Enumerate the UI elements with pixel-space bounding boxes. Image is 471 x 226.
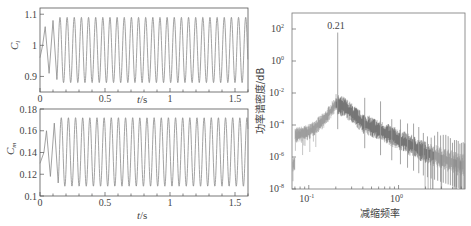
x-tick-label: 1.5 bbox=[229, 197, 242, 208]
cl-ylabel: Cl bbox=[8, 41, 22, 50]
psd-y-tick-label: 100 bbox=[271, 55, 284, 66]
cl-xlabel: t/s bbox=[137, 93, 147, 105]
x-tick-label: 1 bbox=[168, 93, 173, 104]
y-tick-label: 0.18 bbox=[20, 104, 38, 115]
cl-series-line bbox=[40, 17, 248, 82]
cm-x-ticks: 00.511.5 bbox=[38, 192, 249, 208]
cl-plot: 00.511.5 1.110.9 Cl t/s bbox=[8, 8, 248, 105]
y-tick-label: 1 bbox=[32, 40, 37, 51]
chart-figure: 00.511.5 1.110.9 Cl t/s 00.511.5 0.180.1… bbox=[0, 0, 471, 226]
cm-series-line bbox=[40, 118, 248, 187]
psd-x-ticks: 10-1100 bbox=[295, 185, 461, 204]
peak-annotation: 0.21 bbox=[327, 20, 345, 31]
y-tick-label: 1.1 bbox=[25, 9, 38, 20]
x-tick-label: 1 bbox=[168, 197, 173, 208]
cl-y-ticks: 1.110.9 bbox=[25, 9, 45, 82]
x-tick-label: 1.5 bbox=[229, 93, 242, 104]
psd-y-tick-label: 10-8 bbox=[269, 183, 284, 194]
x-tick-label: 0 bbox=[38, 197, 43, 208]
psd-y-tick-label: 102 bbox=[271, 23, 284, 34]
psd-y-tick-label: 10-2 bbox=[269, 87, 284, 98]
cm-ylabel: Cm bbox=[4, 143, 18, 155]
y-tick-label: 0.1 bbox=[25, 191, 38, 202]
psd-series bbox=[293, 33, 465, 189]
y-tick-label: 0.12 bbox=[20, 169, 38, 180]
psd-y-tick-label: 10-6 bbox=[269, 151, 284, 162]
x-tick-label: 0.5 bbox=[99, 93, 112, 104]
x-tick-label: 0.5 bbox=[99, 197, 112, 208]
y-tick-label: 0.14 bbox=[20, 147, 38, 158]
psd-ylabel: 功率谱密度/dB bbox=[254, 68, 266, 135]
x-tick-label: 0 bbox=[38, 93, 43, 104]
psd-plot: 10210010-210-410-610-8 10-1100 0.21 功率谱密… bbox=[254, 13, 465, 219]
cm-plot: 00.511.5 0.180.160.140.120.1 Cm t/s bbox=[4, 104, 248, 222]
psd-xlabel: 减缩频率 bbox=[360, 207, 400, 219]
psd-x-tick-label: 10-1 bbox=[299, 193, 314, 204]
psd-x-tick-label: 100 bbox=[390, 193, 403, 204]
y-tick-label: 0.16 bbox=[20, 125, 38, 136]
y-tick-label: 0.9 bbox=[25, 71, 38, 82]
psd-y-tick-label: 10-4 bbox=[269, 119, 284, 130]
cm-xlabel: t/s bbox=[137, 209, 147, 221]
